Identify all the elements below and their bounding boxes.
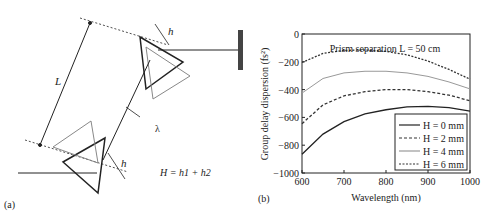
y-axis-label: Group delay dispersion (fs²) bbox=[259, 48, 271, 161]
annotation: Prism separation L = 50 cm bbox=[330, 43, 441, 54]
h1-label: h bbox=[121, 157, 127, 169]
L-label: L bbox=[54, 75, 61, 87]
svg-text:700: 700 bbox=[337, 176, 352, 187]
panel-a-label: (a) bbox=[4, 199, 15, 211]
svg-text:800: 800 bbox=[379, 176, 394, 187]
panel-b-label: (b) bbox=[258, 193, 270, 205]
x-axis-label: Wavelength (nm) bbox=[351, 192, 420, 204]
svg-text:−1000: −1000 bbox=[273, 168, 299, 179]
svg-text:1000: 1000 bbox=[460, 176, 480, 187]
svg-text:H = 6 mm: H = 6 mm bbox=[423, 159, 464, 170]
svg-text:H = 0 mm: H = 0 mm bbox=[423, 120, 464, 131]
lambda-label: λ bbox=[155, 123, 160, 134]
svg-text:H = 2 mm: H = 2 mm bbox=[423, 133, 464, 144]
svg-text:0: 0 bbox=[294, 29, 299, 40]
svg-text:−600: −600 bbox=[278, 112, 299, 123]
svg-text:−800: −800 bbox=[278, 140, 299, 151]
h2-label: h bbox=[168, 25, 174, 37]
figure-svg: L h h H = h1 + h2 λ (a) (b) 600700800900… bbox=[0, 0, 496, 214]
svg-text:900: 900 bbox=[421, 176, 436, 187]
legend: H = 0 mmH = 2 mmH = 4 mmH = 6 mm bbox=[395, 114, 467, 170]
figure: L h h H = h1 + h2 λ (a) (b) 600700800900… bbox=[0, 0, 496, 214]
equation-label: H = h1 + h2 bbox=[159, 167, 211, 178]
svg-text:H = 4 mm: H = 4 mm bbox=[423, 146, 464, 157]
svg-text:−200: −200 bbox=[278, 57, 299, 68]
svg-text:−400: −400 bbox=[278, 85, 299, 96]
